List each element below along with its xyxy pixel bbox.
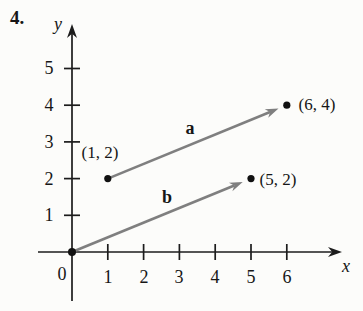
x-tick-label-5: 5 <box>239 267 263 287</box>
point-label-1-2: (1, 2) <box>74 143 126 163</box>
point-label-6-4: (6, 4) <box>291 95 343 115</box>
y-axis-label: y <box>48 14 68 34</box>
x-tick-label-2: 2 <box>132 267 156 287</box>
origin-dot <box>68 248 76 256</box>
vector-a-label: a <box>180 118 200 138</box>
y-tick-label-2: 2 <box>37 169 61 189</box>
y-tick-label-4: 4 <box>37 95 61 115</box>
x-tick-label-4: 4 <box>203 267 227 287</box>
problem-number: 4. <box>10 8 24 28</box>
x-axis-label: x <box>336 256 356 276</box>
y-tick-label-3: 3 <box>37 132 61 152</box>
y-tick-label-1: 1 <box>37 205 61 225</box>
origin-label: 0 <box>52 264 72 284</box>
point-label-5-2: (5, 2) <box>252 170 304 190</box>
x-tick-label-3: 3 <box>167 267 191 287</box>
x-tick-label-1: 1 <box>96 267 120 287</box>
figure-container: 4. y x 0 1 2 3 4 5 1 2 3 4 5 6 (1, 2) (6… <box>0 0 363 311</box>
point-dot-6-4 <box>283 102 290 109</box>
point-dot-1-2 <box>104 175 111 182</box>
vector-b-line <box>72 185 234 252</box>
y-tick-label-5: 5 <box>37 58 61 78</box>
x-tick-label-6: 6 <box>275 267 299 287</box>
vector-b-label: b <box>157 187 177 207</box>
